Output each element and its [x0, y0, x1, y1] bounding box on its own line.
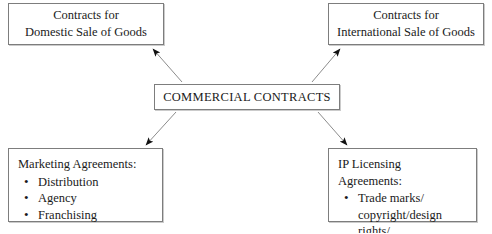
node-domestic-contracts[interactable]: Contracts for Domestic Sale of Goods	[8, 3, 164, 45]
list-item: Distribution	[22, 174, 153, 191]
diagram-canvas: Contracts for Domestic Sale of Goods Con…	[0, 0, 492, 233]
node-marketing-list: Distribution Agency Franchising	[18, 174, 153, 224]
list-item: Trade marks/ copyright/design rights/ pa…	[342, 190, 467, 233]
node-commercial-contracts[interactable]: COMMERCIAL CONTRACTS	[154, 84, 340, 110]
node-ip-item-line1: Trade marks/	[358, 190, 467, 207]
list-item: Agency	[22, 190, 153, 207]
edge-center-to-ip	[318, 112, 347, 145]
node-marketing-agreements[interactable]: Marketing Agreements: Distribution Agenc…	[8, 148, 163, 222]
list-item: Franchising	[22, 207, 153, 224]
node-domestic-line1: Contracts for	[53, 7, 119, 24]
node-marketing-heading: Marketing Agreements:	[18, 156, 153, 173]
node-domestic-line2: Domestic Sale of Goods	[25, 24, 147, 41]
node-ip-heading: IP Licensing Agreements:	[338, 156, 467, 189]
node-ip-licensing-agreements[interactable]: IP Licensing Agreements: Trade marks/ co…	[328, 148, 477, 222]
edge-center-to-domestic	[153, 49, 182, 82]
edge-center-to-marketing	[146, 112, 176, 145]
node-international-line2: International Sale of Goods	[337, 24, 475, 41]
node-ip-item-line2: copyright/design rights/	[358, 207, 467, 234]
node-international-line1: Contracts for	[373, 7, 439, 24]
node-commercial-label: COMMERCIAL CONTRACTS	[163, 90, 331, 105]
node-ip-list: Trade marks/ copyright/design rights/ pa…	[338, 190, 467, 233]
edge-center-to-international	[312, 49, 340, 82]
node-international-contracts[interactable]: Contracts for International Sale of Good…	[328, 3, 484, 45]
